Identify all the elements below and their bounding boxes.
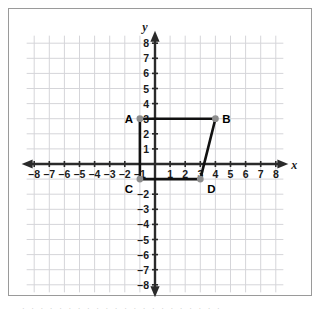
y-tick-label: –5 [137,234,149,246]
y-tick-label: 2 [143,128,149,140]
x-tick-label: –8 [28,168,40,180]
x-tick-label: 7 [258,168,264,180]
y-tick-label: –7 [137,264,149,276]
x-tick-label: 2 [182,168,188,180]
y-axis-label: y [140,20,148,34]
x-axis-arrow-right [277,159,288,168]
y-tick-label: 8 [143,37,149,49]
x-tick-label: –6 [59,168,71,180]
vertex-marker-b [212,115,219,122]
y-tick-label: 6 [143,67,149,79]
x-tick-label: 4 [212,168,218,180]
x-tick-label: 8 [273,168,279,180]
y-tick-label: 1 [143,143,149,155]
vertex-label-c: C [125,183,133,195]
y-tick-label: 7 [143,52,149,64]
caption-strip: · · · · · · · · · · · · · · · · · · · · … [0,303,322,314]
x-tick-label: –7 [43,168,55,180]
vertex-marker-d [197,176,204,183]
coordinate-plane-svg: –8–7–6–5–4–3–2–11234567887654321–2–3–4–5… [0,0,322,314]
y-tick-label: 4 [143,98,149,110]
y-tick-label: –4 [137,218,149,230]
x-tick-label: 5 [228,168,234,180]
x-tick-label: –3 [104,168,116,180]
vertex-label-d: D [207,183,215,195]
y-axis-arrow-up [150,31,159,42]
x-tick-label: 6 [243,168,249,180]
coordinate-plane-figure: –8–7–6–5–4–3–2–11234567887654321–2–3–4–5… [0,0,322,314]
y-tick-label: 5 [143,83,149,95]
axes [22,31,289,298]
y-tick-label: –3 [137,203,149,215]
x-axis-label: x [290,158,297,172]
y-axis-arrow-down [150,286,159,297]
x-tick-label: 1 [167,168,173,180]
vertex-marker-a [137,115,144,122]
y-tick-label: –8 [137,279,149,291]
caption-text: · · · · · · · · · · · · · · · · · · · · … [0,303,322,314]
y-tick-label: –2 [137,188,149,200]
x-tick-label: –4 [89,168,101,180]
x-tick-label: –5 [74,168,86,180]
vertex-label-a: A [125,113,133,125]
y-tick-label: –6 [137,249,149,261]
x-tick-label: –2 [119,168,131,180]
vertex-label-b: B [222,113,230,125]
vertex-marker-c [137,176,144,183]
